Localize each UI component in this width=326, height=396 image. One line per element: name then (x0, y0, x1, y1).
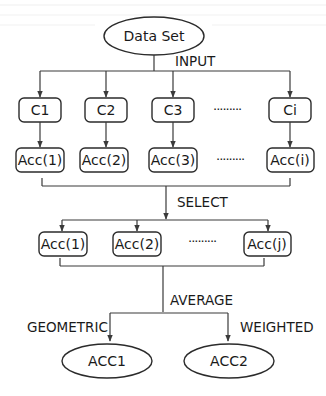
classifier-c3: C3 (152, 98, 194, 122)
selected-accuracy-2: Acc(2) (113, 232, 161, 256)
selected-accuracy-label: Acc(j) (247, 236, 287, 252)
accuracy-2: Acc(2) (80, 148, 128, 172)
average-label: AVERAGE (170, 292, 233, 308)
selected-ellipsis: ········· (188, 234, 216, 249)
output-acc1: ACC1 (62, 344, 152, 378)
classifier-ellipsis: ········· (213, 102, 241, 117)
accuracy-label: Acc(1) (18, 152, 63, 168)
data-set-node: Data Set (104, 17, 204, 55)
output-label: ACC2 (210, 353, 248, 369)
accuracy-1: Acc(1) (16, 148, 64, 172)
selected-accuracy-1: Acc(1) (39, 232, 87, 256)
output-acc2: ACC2 (184, 344, 274, 378)
accuracy-label: Acc(i) (270, 152, 310, 168)
classifier-c1: C1 (19, 98, 61, 122)
select-label: SELECT (177, 194, 229, 210)
ensemble-flow-diagram: Data Set INPUT C1 C2 C3 ········· Ci Acc… (0, 0, 326, 396)
accuracy-label: Acc(2) (82, 152, 127, 168)
data-set-label: Data Set (124, 28, 185, 44)
selected-accuracy-j: Acc(j) (244, 232, 291, 256)
output-label: ACC1 (88, 353, 126, 369)
input-label: INPUT (175, 53, 216, 69)
classifier-to-accuracy-arrows (40, 122, 290, 147)
input-connector (40, 55, 290, 97)
selected-accuracy-label: Acc(2) (115, 236, 160, 252)
accuracy-label: Acc(3) (151, 152, 196, 168)
classifier-label: C1 (31, 102, 50, 118)
classifier-ci: Ci (269, 98, 311, 122)
selected-accuracy-label: Acc(1) (41, 236, 86, 252)
select-connector (42, 178, 290, 231)
accuracy-ellipsis: ········· (216, 152, 244, 167)
classifier-c2: C2 (85, 98, 127, 122)
classifier-label: Ci (283, 102, 297, 118)
weighted-label: WEIGHTED (240, 319, 314, 335)
geometric-label: GEOMETRIC (27, 319, 108, 335)
accuracy-i: Acc(i) (267, 148, 314, 172)
classifier-label: C3 (164, 102, 183, 118)
accuracy-3: Acc(3) (149, 148, 197, 172)
classifier-label: C2 (97, 102, 116, 118)
